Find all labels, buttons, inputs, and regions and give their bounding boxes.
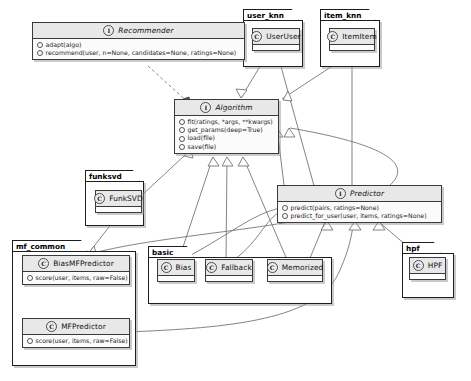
- class-name: Algorithm: [215, 103, 252, 112]
- member-dot-icon: [282, 205, 288, 211]
- member-label: recommend(user, n=None, candidates=None,…: [46, 49, 237, 57]
- edge-useruser-predictor: [280, 63, 316, 193]
- member-label: predict(pairs, ratings=None): [291, 204, 379, 212]
- member-row: predict(pairs, ratings=None): [282, 204, 438, 212]
- interface-icon: I: [200, 102, 211, 113]
- class-name: Bias: [176, 263, 192, 272]
- class-header: C UserUser: [253, 29, 299, 45]
- package-label: user_knn: [247, 11, 284, 20]
- member-row: get_params(deep=True): [179, 126, 275, 134]
- class-box-memorized[interactable]: C Memorized: [267, 259, 323, 282]
- member-row: score(user, items, raw=False): [27, 337, 126, 345]
- class-header: I Recommender: [33, 23, 244, 39]
- class-name: Recommender: [118, 26, 173, 35]
- class-icon: C: [94, 193, 105, 204]
- member-dot-icon: [37, 42, 43, 48]
- class-members: [158, 276, 194, 281]
- class-icon: C: [206, 262, 217, 273]
- class-members: score(user, items, raw=False): [23, 335, 129, 347]
- class-box-mfpredictor[interactable]: C MFPredictor score(user, items, raw=Fal…: [22, 318, 130, 348]
- class-members: [330, 45, 374, 50]
- class-name: HPF: [428, 261, 443, 270]
- member-row: fit(ratings, *args, **kwargs): [179, 118, 275, 126]
- package-label: hpf: [406, 244, 420, 253]
- class-members: [206, 276, 252, 281]
- class-header: C FunkSVD: [96, 191, 141, 207]
- member-label: fit(ratings, *args, **kwargs): [188, 118, 273, 126]
- class-name: UserUser: [266, 32, 301, 41]
- class-header: C Bias: [158, 260, 194, 276]
- member-label: score(user, items, raw=False): [36, 274, 128, 282]
- class-name: BiasMFPredictor: [53, 259, 114, 268]
- class-members: [96, 207, 141, 212]
- class-name: Fallback: [221, 263, 252, 272]
- class-members: [253, 45, 299, 50]
- class-box-hpf[interactable]: C HPF: [409, 257, 446, 280]
- class-name: FunkSVD: [109, 194, 143, 203]
- class-icon: C: [161, 262, 172, 273]
- class-box-useruser[interactable]: C UserUser: [252, 28, 300, 51]
- class-box-biasmfpredictor[interactable]: C BiasMFPredictor score(user, items, raw…: [22, 255, 130, 285]
- class-header: I Predictor: [278, 186, 441, 202]
- member-dot-icon: [179, 127, 185, 133]
- class-icon: C: [38, 258, 49, 269]
- member-row: score(user, items, raw=False): [27, 274, 126, 282]
- class-members: score(user, items, raw=False): [23, 272, 129, 284]
- member-dot-icon: [27, 338, 33, 344]
- class-header: C Memorized: [268, 260, 322, 276]
- class-header: C Fallback: [206, 260, 252, 276]
- interface-icon: I: [335, 188, 346, 199]
- class-name: ItemItem: [342, 32, 376, 41]
- member-label: load(file): [188, 134, 215, 142]
- class-header: C ItemItem: [330, 29, 374, 45]
- package-label: mf_common: [16, 242, 65, 251]
- edge-itemitem-algorithm: [282, 63, 337, 99]
- class-icon: C: [413, 260, 424, 271]
- member-dot-icon: [27, 275, 33, 281]
- class-members: predict(pairs, ratings=None) predict_for…: [278, 202, 441, 222]
- member-dot-icon: [282, 213, 288, 219]
- class-header: C BiasMFPredictor: [23, 256, 129, 272]
- member-label: get_params(deep=True): [188, 126, 263, 134]
- class-box-predictor[interactable]: I Predictor predict(pairs, ratings=None)…: [277, 185, 442, 223]
- member-row: adapt(algo): [37, 41, 241, 49]
- member-label: save(file): [188, 143, 217, 151]
- class-header: C HPF: [410, 258, 445, 274]
- member-label: predict_for_user(user, items, ratings=No…: [291, 212, 427, 220]
- class-box-funksvd[interactable]: C FunkSVD: [95, 190, 142, 213]
- class-name: MFPredictor: [61, 322, 106, 331]
- member-dot-icon: [179, 119, 185, 125]
- class-box-recommender[interactable]: I Recommender adapt(algo) recommend(user…: [32, 22, 245, 60]
- member-row: recommend(user, n=None, candidates=None,…: [37, 49, 241, 57]
- class-members: [268, 276, 322, 281]
- class-box-fallback[interactable]: C Fallback: [205, 259, 253, 282]
- package-label: basic: [152, 248, 173, 257]
- class-members: [410, 274, 445, 279]
- member-row: load(file): [179, 134, 275, 142]
- class-box-itemitem[interactable]: C ItemItem: [329, 28, 375, 51]
- package-label: item_knn: [324, 11, 361, 20]
- class-icon: C: [251, 31, 262, 42]
- class-members: adapt(algo) recommend(user, n=None, cand…: [33, 39, 244, 59]
- package-label: funksvd: [89, 172, 122, 181]
- class-name: Memorized: [282, 263, 324, 272]
- class-header: C MFPredictor: [23, 319, 129, 335]
- interface-icon: I: [103, 25, 114, 36]
- member-dot-icon: [179, 144, 185, 150]
- uml-class-diagram: user_knn item_knn funksvd mf_common basi…: [0, 0, 471, 381]
- class-box-bias[interactable]: C Bias: [157, 259, 195, 282]
- class-name: Predictor: [350, 189, 384, 198]
- member-dot-icon: [37, 50, 43, 56]
- class-icon: C: [267, 262, 278, 273]
- class-header: I Algorithm: [175, 100, 278, 116]
- member-row: save(file): [179, 143, 275, 151]
- class-icon: C: [46, 321, 57, 332]
- member-dot-icon: [179, 136, 185, 142]
- class-icon: C: [327, 31, 338, 42]
- member-label: score(user, items, raw=False): [36, 337, 128, 345]
- class-box-algorithm[interactable]: I Algorithm fit(ratings, *args, **kwargs…: [174, 99, 279, 154]
- member-row: predict_for_user(user, items, ratings=No…: [282, 212, 438, 220]
- member-label: adapt(algo): [46, 41, 82, 49]
- edge-useruser-algorithm: [241, 63, 262, 98]
- class-members: fit(ratings, *args, **kwargs) get_params…: [175, 116, 278, 153]
